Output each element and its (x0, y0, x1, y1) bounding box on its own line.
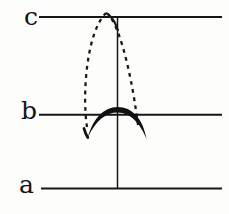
figure-canvas: c b a (0, 0, 229, 214)
level-curve-diagram: c b a (0, 0, 229, 214)
label-b: b (21, 96, 37, 125)
label-c: c (24, 2, 38, 31)
label-a: a (19, 170, 34, 199)
bold-arc-left-hook (84, 129, 88, 138)
dashed-curve-left-branch (85, 13, 106, 127)
